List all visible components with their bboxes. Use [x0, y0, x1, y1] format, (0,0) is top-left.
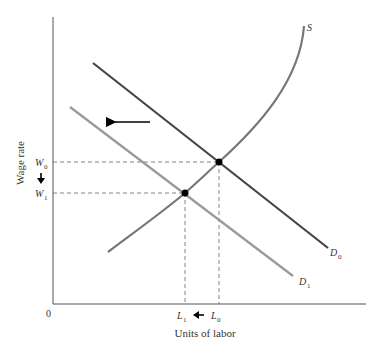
- origin-label: 0: [46, 308, 51, 319]
- equilibrium-point-e1: [182, 190, 189, 197]
- supply-label: S: [307, 22, 312, 33]
- svg-text:1: 1: [307, 282, 311, 290]
- svg-text:1: 1: [183, 316, 187, 324]
- svg-text:0: 0: [217, 316, 221, 324]
- svg-text:L: L: [176, 310, 183, 321]
- w1-label: W 1: [35, 188, 48, 202]
- svg-text:D: D: [329, 247, 338, 258]
- equilibrium-point-e0: [216, 159, 223, 166]
- wage-down-arrow-icon: [37, 173, 45, 184]
- labor-market-diagram: Wage rate 0 Units of labor S D 0 D 1 W 0…: [0, 0, 383, 354]
- demand-curve-d0: [93, 63, 328, 248]
- guide-lines: [53, 162, 219, 304]
- x-axis-label: Units of labor: [174, 327, 235, 339]
- svg-text:0: 0: [338, 253, 342, 261]
- l1-label: L 1: [176, 310, 187, 324]
- w0-label: W 0: [35, 157, 48, 171]
- svg-text:1: 1: [44, 194, 48, 202]
- y-axis-label: Wage rate: [14, 141, 26, 185]
- svg-text:0: 0: [44, 163, 48, 171]
- d0-label: D 0: [329, 247, 342, 261]
- l0-label: L 0: [210, 310, 221, 324]
- svg-text:L: L: [210, 310, 217, 321]
- supply-curve: [108, 26, 304, 252]
- svg-text:D: D: [298, 276, 307, 287]
- d1-label: D 1: [298, 276, 311, 290]
- labor-left-arrow-icon: [193, 311, 204, 319]
